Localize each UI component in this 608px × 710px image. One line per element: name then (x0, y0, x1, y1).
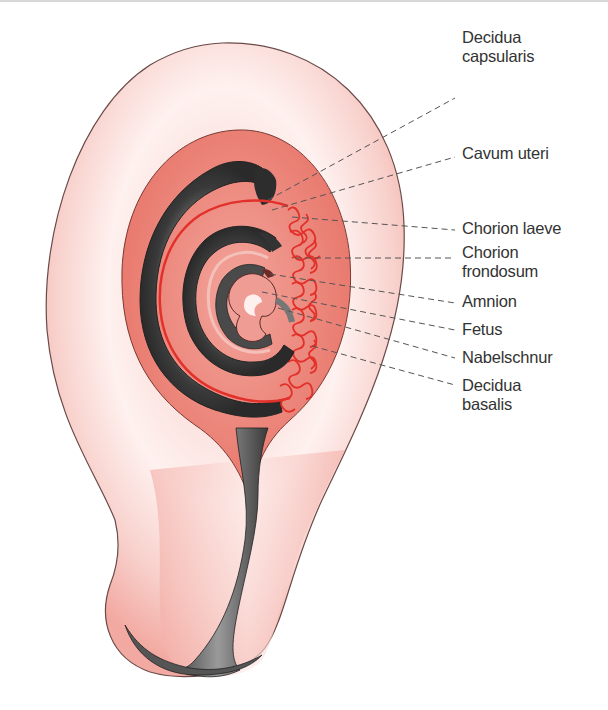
label-decidua-capsularis: Decidua capsularis (462, 28, 534, 66)
label-line: capsularis (462, 47, 534, 66)
label-line: Chorion laeve (462, 219, 561, 238)
label-amnion: Amnion (462, 292, 517, 311)
label-line: Decidua (462, 376, 521, 395)
label-line: Nabelschnur (462, 348, 552, 367)
label-nabelschnur: Nabelschnur (462, 348, 552, 367)
label-chorion-frondosum: Chorion frondosum (462, 243, 538, 281)
label-fetus: Fetus (462, 320, 502, 339)
label-cavum-uteri: Cavum uteri (462, 144, 549, 163)
label-line: basalis (462, 395, 521, 414)
label-line: Chorion (462, 243, 538, 262)
label-decidua-basalis: Decidua basalis (462, 376, 521, 414)
label-line: Cavum uteri (462, 144, 549, 163)
label-line: frondosum (462, 262, 538, 281)
label-line: Decidua (462, 28, 534, 47)
label-line: Amnion (462, 292, 517, 311)
label-line: Fetus (462, 320, 502, 339)
label-chorion-laeve: Chorion laeve (462, 219, 561, 238)
